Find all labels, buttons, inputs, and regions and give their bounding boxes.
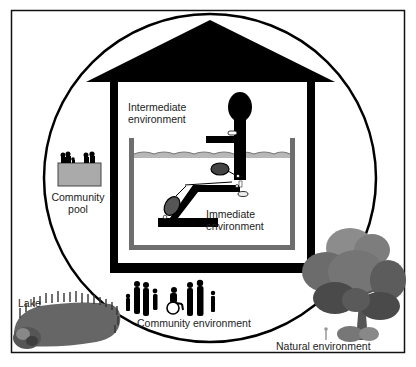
label-line: environment: [128, 113, 186, 125]
label-line: Intermediate: [128, 101, 186, 113]
diagram-canvas: [0, 0, 416, 367]
label-natural-environment: Natural environment: [276, 340, 371, 352]
label-immediate-environment: Immediate environment: [206, 208, 264, 232]
house-floor: [110, 263, 315, 273]
label-line: environment: [206, 220, 264, 232]
house-right-wall: [307, 80, 315, 273]
label-community-pool: Community pool: [50, 191, 106, 215]
environment-diagram: Intermediate environment Immediate envir…: [0, 0, 416, 367]
label-intermediate-environment: Intermediate environment: [128, 101, 186, 125]
label-line: pool: [50, 203, 106, 215]
label-community-environment: Community environment: [137, 317, 251, 329]
label-line: Immediate: [206, 208, 264, 220]
house-left-wall: [110, 80, 118, 273]
bush-icon: [13, 327, 41, 349]
label-lake: Lake: [18, 297, 41, 309]
label-line: Community: [50, 191, 106, 203]
